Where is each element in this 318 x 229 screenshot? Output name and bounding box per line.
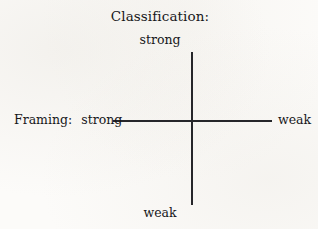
horizontal-axis-name: Framing: — [14, 114, 72, 127]
vertical-axis-bottom-label: weak — [0, 207, 318, 220]
classification-framing-diagram: Classification: strong Framing: strong w… — [0, 0, 318, 229]
vertical-axis-top-label: strong — [0, 34, 318, 47]
diagram-title: Classification: — [0, 10, 318, 24]
horizontal-axis-left-label: strong — [81, 114, 122, 127]
vertical-axis-line — [191, 52, 193, 205]
horizontal-axis-right-label: weak — [278, 114, 311, 127]
horizontal-axis-line — [113, 120, 272, 122]
horizontal-axis-left-group: Framing: strong — [14, 114, 122, 127]
